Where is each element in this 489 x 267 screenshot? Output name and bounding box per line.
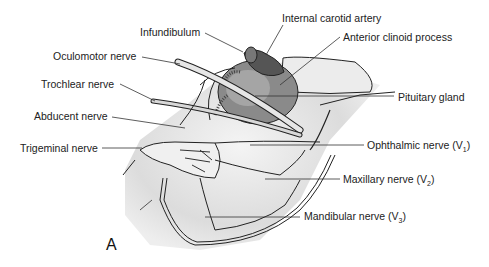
- label-maxillary-nerve: Maxillary nerve (V2): [343, 173, 434, 190]
- label-anterior-clinoid-process: Anterior clinoid process: [343, 31, 452, 43]
- label-mandibular-nerve: Mandibular nerve (V3): [304, 210, 406, 227]
- label-oculomotor-nerve: Oculomotor nerve: [53, 50, 136, 62]
- label-abducent-nerve: Abducent nerve: [34, 110, 108, 122]
- panel-letter: A: [106, 236, 117, 254]
- label-infundibulum: Infundibulum: [140, 26, 200, 38]
- label-internal-carotid-artery: Internal carotid artery: [282, 12, 381, 24]
- label-trochlear-nerve: Trochlear nerve: [41, 78, 114, 90]
- label-pituitary-gland: Pituitary gland: [398, 91, 465, 103]
- label-trigeminal-nerve: Trigeminal nerve: [20, 142, 98, 154]
- label-ophthalmic-nerve: Ophthalmic nerve (V1): [367, 139, 470, 156]
